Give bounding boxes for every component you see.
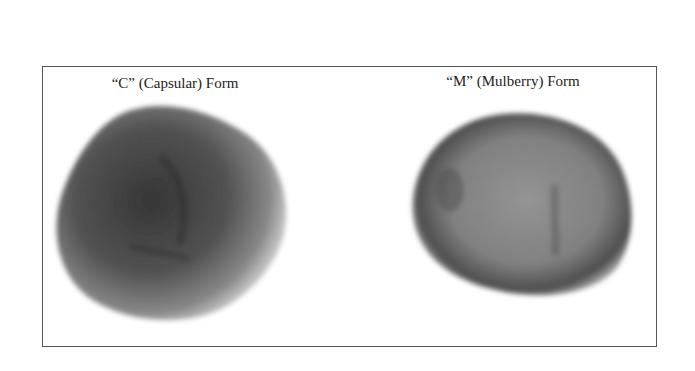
mulberry-particle-image	[405, 105, 645, 305]
capsular-particle-image	[40, 95, 300, 330]
mulberry-form-label: “M” (Mulberry) Form	[446, 73, 579, 90]
capsular-form-label: “C” (Capsular) Form	[112, 75, 239, 92]
